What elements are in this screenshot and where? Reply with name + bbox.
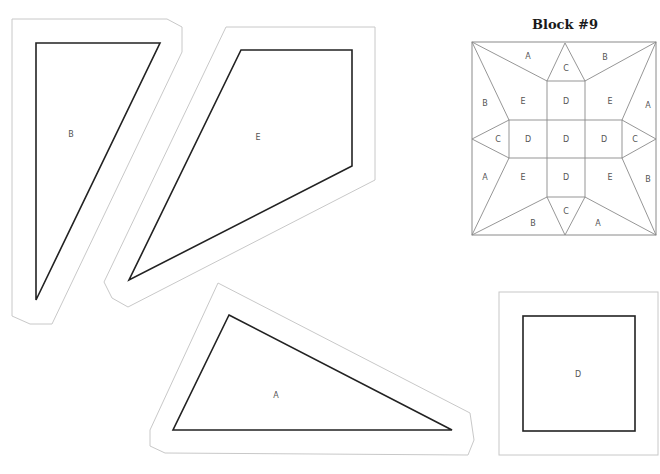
block-label-right-a: A: [645, 101, 651, 110]
block-title: Block #9: [532, 17, 598, 32]
template-e-cut-line: [104, 27, 375, 307]
block-line-tr-b: [622, 42, 656, 120]
template-piece-d: D: [499, 292, 658, 455]
template-piece-a: A: [150, 283, 474, 455]
block-bottom-c: [547, 197, 585, 235]
block-label-upper-right-e: E: [607, 97, 612, 106]
block-top-c: [547, 43, 585, 81]
block-label-upper-left-e: E: [520, 97, 525, 106]
block-label-bottom-a: A: [595, 219, 601, 228]
block-label-left-b: B: [482, 99, 488, 108]
block-label-upper-d: D: [563, 97, 569, 106]
block-line-tl-b: [472, 42, 509, 120]
block-label-bottom-b: B: [530, 219, 536, 228]
block-label-left-d: D: [525, 135, 531, 144]
block-label-top-c: C: [563, 64, 569, 73]
block-label-right-d: D: [601, 135, 607, 144]
block-line-tr-a: [585, 42, 656, 81]
block-diagram: Block #9 A C B B E D E A C D D: [472, 17, 656, 236]
block-label-left-a: A: [482, 173, 488, 182]
quilt-pattern-sheet: B E A D Block #9: [0, 0, 660, 474]
template-e-label: E: [255, 133, 260, 142]
block-label-left-c: C: [495, 135, 501, 144]
template-d-label: D: [575, 370, 581, 379]
template-a-label: A: [273, 391, 279, 400]
block-line-bl-a: [472, 197, 547, 235]
block-label-right-c: C: [632, 135, 638, 144]
block-line-br-b: [622, 158, 656, 235]
block-line-br-a: [585, 197, 656, 235]
block-label-lower-left-e: E: [520, 173, 525, 182]
template-e-sew-line: [129, 50, 352, 280]
block-label-top-b: B: [602, 53, 608, 62]
block-label-lower-d: D: [563, 173, 569, 182]
block-line-tl-a: [472, 42, 547, 81]
template-piece-e: E: [104, 27, 375, 307]
block-label-lower-right-e: E: [607, 173, 612, 182]
block-left-c: [472, 120, 509, 158]
block-label-right-b: B: [645, 175, 651, 184]
template-b-label: B: [68, 130, 74, 139]
block-label-center-d: D: [563, 135, 569, 144]
block-label-top-a: A: [525, 52, 531, 61]
template-b-sew-line: [36, 43, 160, 300]
block-line-bl-b: [472, 158, 509, 235]
block-right-c: [622, 120, 656, 158]
block-label-bottom-c: C: [563, 207, 569, 216]
